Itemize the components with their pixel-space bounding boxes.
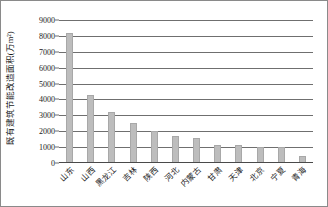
x-axis-category-label: 青海 [291, 166, 308, 183]
bar[interactable] [130, 123, 137, 163]
x-label-slot: 甘肃 [207, 164, 228, 207]
bar[interactable] [108, 112, 115, 163]
bar[interactable] [87, 95, 94, 163]
bar-slot [271, 20, 292, 163]
y-axis-tick-label: 1000 [39, 143, 55, 152]
y-axis-title: 既有建筑节能改造面积(万m²) [3, 1, 17, 176]
bar-series [59, 20, 313, 163]
bar[interactable] [172, 136, 179, 163]
bar-slot [186, 20, 207, 163]
bar[interactable] [257, 147, 264, 163]
x-axis-line [59, 162, 313, 163]
bar-slot [101, 20, 122, 163]
x-label-slot: 青海 [292, 164, 313, 207]
y-axis-tick-label: 2000 [39, 127, 55, 136]
bar[interactable] [278, 147, 285, 163]
bar-slot [250, 20, 271, 163]
x-label-slot: 宁夏 [271, 164, 292, 207]
bar-slot [292, 20, 313, 163]
bar-slot [144, 20, 165, 163]
x-axis-category-label: 河北 [164, 166, 181, 183]
x-axis-category-label: 陕西 [143, 166, 160, 183]
x-axis-category-label: 山东 [58, 166, 75, 183]
x-axis-category-label: 北京 [249, 166, 266, 183]
bar[interactable] [193, 138, 200, 163]
x-label-slot: 吉林 [123, 164, 144, 207]
y-axis-tick-label: 0 [51, 159, 55, 168]
y-axis-tick-label: 8000 [39, 31, 55, 40]
bar-slot [59, 20, 80, 163]
x-label-slot: 山东 [59, 164, 80, 207]
x-label-slot: 北京 [250, 164, 271, 207]
bar-slot [123, 20, 144, 163]
x-label-slot: 天津 [228, 164, 249, 207]
bar[interactable] [66, 33, 73, 163]
y-axis-tick-label: 9000 [39, 16, 55, 25]
x-axis-category-label: 吉林 [122, 166, 139, 183]
bar-slot [207, 20, 228, 163]
x-label-slot: 黑龙江 [101, 164, 122, 207]
x-axis-category-label: 宁夏 [270, 166, 287, 183]
y-axis-tick-label: 3000 [39, 111, 55, 120]
plot-area: 9000800070006000500040003000200010000 [59, 20, 313, 163]
x-label-slot: 陕西 [144, 164, 165, 207]
y-axis-title-text: 既有建筑节能改造面积(万m²) [6, 32, 15, 146]
y-axis-tick-label: 4000 [39, 95, 55, 104]
x-axis-category-label: 甘肃 [206, 166, 223, 183]
bar-slot [80, 20, 101, 163]
x-axis-category-labels: 山东山西黑龙江吉林陕西河北内蒙古甘肃天津北京宁夏青海 [59, 164, 313, 207]
bar-slot [165, 20, 186, 163]
bar[interactable] [214, 145, 221, 163]
bar[interactable] [151, 131, 158, 163]
x-label-slot: 内蒙古 [186, 164, 207, 207]
y-axis-tick-label: 6000 [39, 63, 55, 72]
bar-slot [228, 20, 249, 163]
y-axis-tick-label: 7000 [39, 47, 55, 56]
y-axis-tick-label: 5000 [39, 79, 55, 88]
bar-chart-figure: 既有建筑节能改造面积(万m²) 900080007000600050004000… [0, 0, 328, 207]
x-axis-category-label: 山西 [79, 166, 96, 183]
bar[interactable] [235, 145, 242, 163]
x-axis-category-label: 天津 [228, 166, 245, 183]
